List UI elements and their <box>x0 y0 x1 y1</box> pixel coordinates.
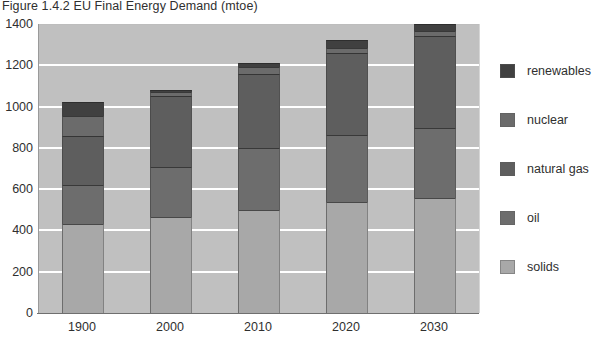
bar-slot <box>391 24 479 313</box>
bar-segment-solids[interactable] <box>62 224 104 313</box>
y-tick-label: 400 <box>12 223 33 237</box>
legend-item-solids[interactable]: solids <box>500 242 598 291</box>
legend-label: solids <box>527 260 559 274</box>
bar-segment-natural-gas[interactable] <box>414 36 456 128</box>
x-tick-label: 2010 <box>214 316 302 338</box>
plot-area <box>38 24 480 313</box>
bar-slot <box>303 24 391 313</box>
legend-item-renewables[interactable]: renewables <box>500 46 598 95</box>
legend-label: nuclear <box>527 113 568 127</box>
x-tick-label: 2000 <box>126 316 214 338</box>
chart-legend: renewablesnuclearnatural gasoilsolids <box>500 46 598 291</box>
bar-segment-renewables[interactable] <box>62 102 104 115</box>
bar-segment-natural-gas[interactable] <box>150 96 192 167</box>
bar-segment-oil[interactable] <box>414 128 456 198</box>
bar-stack[interactable] <box>62 102 104 313</box>
y-tick-label: 800 <box>12 141 33 155</box>
y-tick-label: 0 <box>26 306 33 320</box>
bar-segment-solids[interactable] <box>326 202 368 313</box>
bar-segment-solids[interactable] <box>238 210 280 313</box>
bar-segment-natural-gas[interactable] <box>62 136 104 186</box>
bar-segment-renewables[interactable] <box>326 40 368 48</box>
legend-label: oil <box>527 211 540 225</box>
chart-figure: Figure 1.4.2 EU Final Energy Demand (mto… <box>0 0 600 343</box>
y-tick-label: 1200 <box>5 58 33 72</box>
x-tick-label: 1900 <box>38 316 126 338</box>
bar-segment-nuclear[interactable] <box>62 116 104 136</box>
bar-segment-oil[interactable] <box>62 185 104 224</box>
bar-segment-oil[interactable] <box>150 167 192 217</box>
bar-slot <box>39 24 127 313</box>
chart-title: Figure 1.4.2 EU Final Energy Demand (mto… <box>2 0 258 13</box>
bar-segment-solids[interactable] <box>414 198 456 313</box>
legend-swatch-oil <box>500 211 515 225</box>
bar-segment-oil[interactable] <box>238 148 280 210</box>
y-tick-label: 1400 <box>5 17 33 31</box>
legend-label: natural gas <box>527 162 589 176</box>
bar-segment-natural-gas[interactable] <box>238 74 280 148</box>
legend-label: renewables <box>527 64 591 78</box>
bar-stack[interactable] <box>238 63 280 313</box>
bar-segment-oil[interactable] <box>326 135 368 201</box>
legend-swatch-natural-gas <box>500 162 515 176</box>
bar-stack[interactable] <box>150 90 192 313</box>
y-tick-label: 600 <box>12 182 33 196</box>
bar-segment-renewables[interactable] <box>414 24 456 31</box>
bar-slot <box>127 24 215 313</box>
bar-segment-solids[interactable] <box>150 217 192 313</box>
legend-item-nuclear[interactable]: nuclear <box>500 95 598 144</box>
bar-segment-natural-gas[interactable] <box>326 53 368 136</box>
bar-stack[interactable] <box>414 24 456 313</box>
y-axis: 1400120010008006004002000 <box>0 24 33 313</box>
bar-stack[interactable] <box>326 40 368 313</box>
bar-slot <box>215 24 303 313</box>
legend-swatch-nuclear <box>500 113 515 127</box>
legend-item-oil[interactable]: oil <box>500 193 598 242</box>
x-axis-line <box>37 313 479 314</box>
legend-swatch-renewables <box>500 64 515 78</box>
legend-item-natural-gas[interactable]: natural gas <box>500 144 598 193</box>
y-tick-label: 200 <box>12 265 33 279</box>
y-tick-label: 1000 <box>5 100 33 114</box>
x-tick-label: 2030 <box>390 316 478 338</box>
legend-swatch-solids <box>500 260 515 274</box>
x-tick-label: 2020 <box>302 316 390 338</box>
bars-layer <box>39 24 479 313</box>
x-axis: 19002000201020202030 <box>38 316 478 338</box>
